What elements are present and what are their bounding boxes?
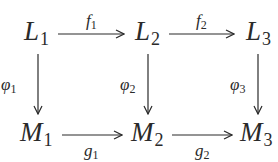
label-f2: f2 — [196, 12, 207, 31]
node-M3: M3 — [240, 119, 273, 149]
node-L2: L2 — [135, 18, 160, 48]
node-M1: M1 — [20, 119, 53, 149]
label-phi2: φ2 — [120, 76, 135, 95]
label-phi1: φ1 — [1, 76, 16, 95]
label-phi3: φ3 — [230, 76, 245, 95]
node-L3: L3 — [246, 18, 271, 48]
label-f1: f1 — [86, 12, 97, 31]
node-M2: M2 — [131, 119, 164, 149]
label-g2: g2 — [195, 142, 210, 161]
label-g1: g1 — [84, 142, 99, 161]
node-L1: L1 — [24, 18, 49, 48]
